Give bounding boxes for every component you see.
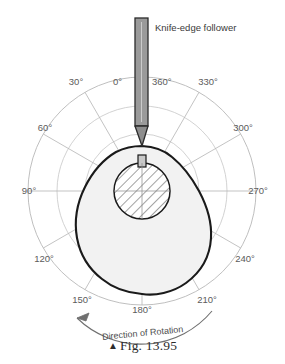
angle-label-30: 30° bbox=[69, 76, 84, 87]
angle-label-300: 300° bbox=[233, 122, 253, 133]
angle-label-240: 240° bbox=[235, 253, 255, 264]
angle-label-360: 360° bbox=[152, 76, 172, 87]
angle-label-270: 270° bbox=[248, 185, 268, 196]
angle-label-330: 330° bbox=[198, 76, 218, 87]
cam-figure: 0° 360° 30° 60° 90° 120° 150° 180° 210° … bbox=[0, 0, 285, 364]
angle-label-210: 210° bbox=[197, 294, 217, 305]
angle-label-120: 120° bbox=[34, 253, 54, 264]
angle-label-0: 0° bbox=[113, 76, 122, 87]
follower-label: Knife-edge follower bbox=[155, 22, 236, 33]
angle-label-90: 90° bbox=[22, 185, 37, 196]
figure-caption: ▲Fig. 13.95 bbox=[0, 338, 285, 354]
follower-knife-tip bbox=[135, 126, 148, 146]
caption-triangle-icon: ▲ bbox=[108, 340, 118, 351]
knife-edge-follower bbox=[135, 18, 148, 146]
angle-label-60: 60° bbox=[38, 122, 53, 133]
angle-label-180: 180° bbox=[132, 304, 152, 315]
cam-displacement-diagram: 0° 360° 30° 60° 90° 120° 150° 180° 210° … bbox=[0, 0, 285, 364]
caption-text: Fig. 13.95 bbox=[120, 338, 177, 353]
angle-label-150: 150° bbox=[72, 294, 92, 305]
